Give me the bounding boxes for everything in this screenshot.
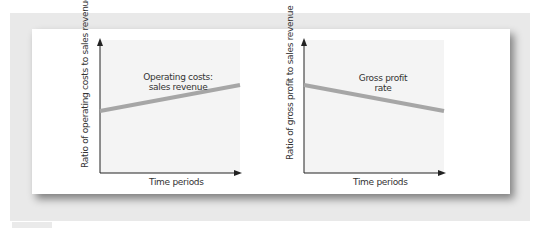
left-annotation-line2: sales revenue xyxy=(138,82,218,92)
right-x-axis-label: Time periods xyxy=(353,177,408,187)
left-annotation-line1: Operating costs: xyxy=(138,72,218,82)
left-x-axis-label: Time periods xyxy=(149,177,204,187)
right-annotation: Gross profit rate xyxy=(348,73,418,93)
right-annotation-line2: rate xyxy=(348,83,418,93)
left-y-axis-label: Ratio of operating costs to sales revenu… xyxy=(80,0,90,168)
right-y-axis-label: Ratio of gross profit to sales revenue xyxy=(285,6,295,160)
left-annotation: Operating costs: sales revenue xyxy=(138,72,218,92)
right-annotation-line1: Gross profit xyxy=(348,73,418,83)
caption-fragment xyxy=(12,222,52,228)
